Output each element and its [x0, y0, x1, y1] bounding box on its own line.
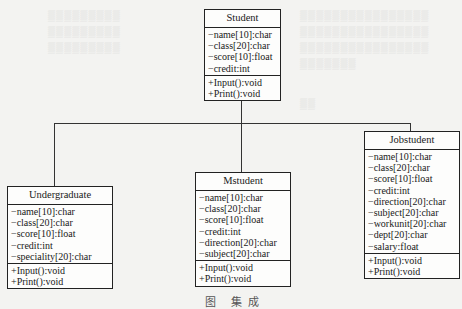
class-name: Undergraduate	[8, 187, 112, 205]
background-bleed-text: ▒▒▒▒▒▒▒▒▒	[48, 8, 121, 23]
attributes-section: −name[10]:char −class[20]:char −score[10…	[196, 191, 290, 261]
attribute: −salary:float	[368, 241, 456, 252]
background-bleed-text: ▒▒▒▒▒▒▒▒▒▒▒▒▒▒▒▒	[300, 8, 429, 23]
attribute: −name[10]:char	[368, 151, 456, 162]
attribute: −class[20]:char	[368, 162, 456, 173]
method: +Print():void	[208, 88, 277, 99]
attribute: −speciality[20]:char	[11, 251, 109, 262]
attributes-section: −name[10]:char −class[20]:char −score[10…	[365, 150, 459, 254]
methods-section: +Input():void +Print():void	[8, 264, 112, 288]
attribute: −credit:int	[199, 226, 287, 237]
method: +Input():void	[11, 265, 109, 276]
method: +Print():void	[368, 266, 456, 277]
class-box-student: Student −name[10]:char −class[20]:char −…	[204, 9, 281, 101]
background-bleed-text: ▒▒▒▒▒▒▒▒▒	[48, 24, 121, 39]
attributes-section: −name[10]:char −class[20]:char −score[10…	[205, 28, 280, 76]
attribute: −dept[20]:char	[368, 229, 456, 240]
methods-section: +Input():void +Print():void	[205, 76, 280, 100]
attribute: −score[10]:float	[11, 228, 109, 239]
attribute: −name[10]:char	[11, 206, 109, 217]
background-bleed-text: ▒▒▒▒▒▒▒▒▒▒▒▒▒▒▒▒	[300, 40, 429, 55]
attribute: −credit:int	[208, 63, 277, 74]
attribute: −score[10]:float	[368, 173, 456, 184]
background-bleed-text: ▒▒	[300, 96, 316, 111]
method: +Print():void	[199, 273, 287, 284]
attribute: −workunit[20]:char	[368, 218, 456, 229]
background-bleed-text: ▒▒▒▒▒▒▒▒▒	[48, 40, 121, 55]
connector-undergraduate	[54, 123, 55, 186]
attribute: −class[20]:char	[11, 217, 109, 228]
attribute: −subject[20]:char	[368, 207, 456, 218]
class-box-mstudent: Mstudent −name[10]:char −class[20]:char …	[195, 172, 291, 287]
attribute: −credit:int	[368, 185, 456, 196]
attribute: −credit:int	[11, 240, 109, 251]
figure-caption: 图 集成	[205, 293, 265, 309]
methods-section: +Input():void +Print():void	[365, 254, 459, 278]
connector-mstudent	[241, 123, 242, 172]
background-bleed-text: ▒▒▒▒▒▒▒	[300, 56, 357, 71]
connector-horizontal-bar	[54, 123, 411, 124]
attribute: −score[10]:float	[208, 51, 277, 62]
attribute: −direction[20]:char	[368, 196, 456, 207]
attribute: −direction[20]:char	[199, 237, 287, 248]
class-name: Jobstudent	[365, 132, 459, 150]
method: +Input():void	[208, 77, 277, 88]
attributes-section: −name[10]:char −class[20]:char −score[10…	[8, 205, 112, 264]
attribute: −subject[20]:char	[199, 248, 287, 259]
class-box-undergraduate: Undergraduate −name[10]:char −class[20]:…	[7, 186, 113, 289]
method: +Input():void	[368, 255, 456, 266]
method: +Input():void	[199, 262, 287, 273]
connector-jobstudent	[410, 123, 411, 131]
class-box-jobstudent: Jobstudent −name[10]:char −class[20]:cha…	[364, 131, 460, 279]
attribute: −name[10]:char	[199, 192, 287, 203]
class-name: Student	[205, 10, 280, 28]
attribute: −class[20]:char	[199, 203, 287, 214]
class-name: Mstudent	[196, 173, 290, 191]
attribute: −name[10]:char	[208, 29, 277, 40]
method: +Print():void	[11, 276, 109, 287]
background-bleed-text: ▒▒▒▒▒▒▒▒▒▒▒▒▒▒▒▒	[300, 24, 429, 39]
attribute: −score[10]:float	[199, 214, 287, 225]
methods-section: +Input():void +Print():void	[196, 261, 290, 285]
attribute: −class[20]:char	[208, 40, 277, 51]
